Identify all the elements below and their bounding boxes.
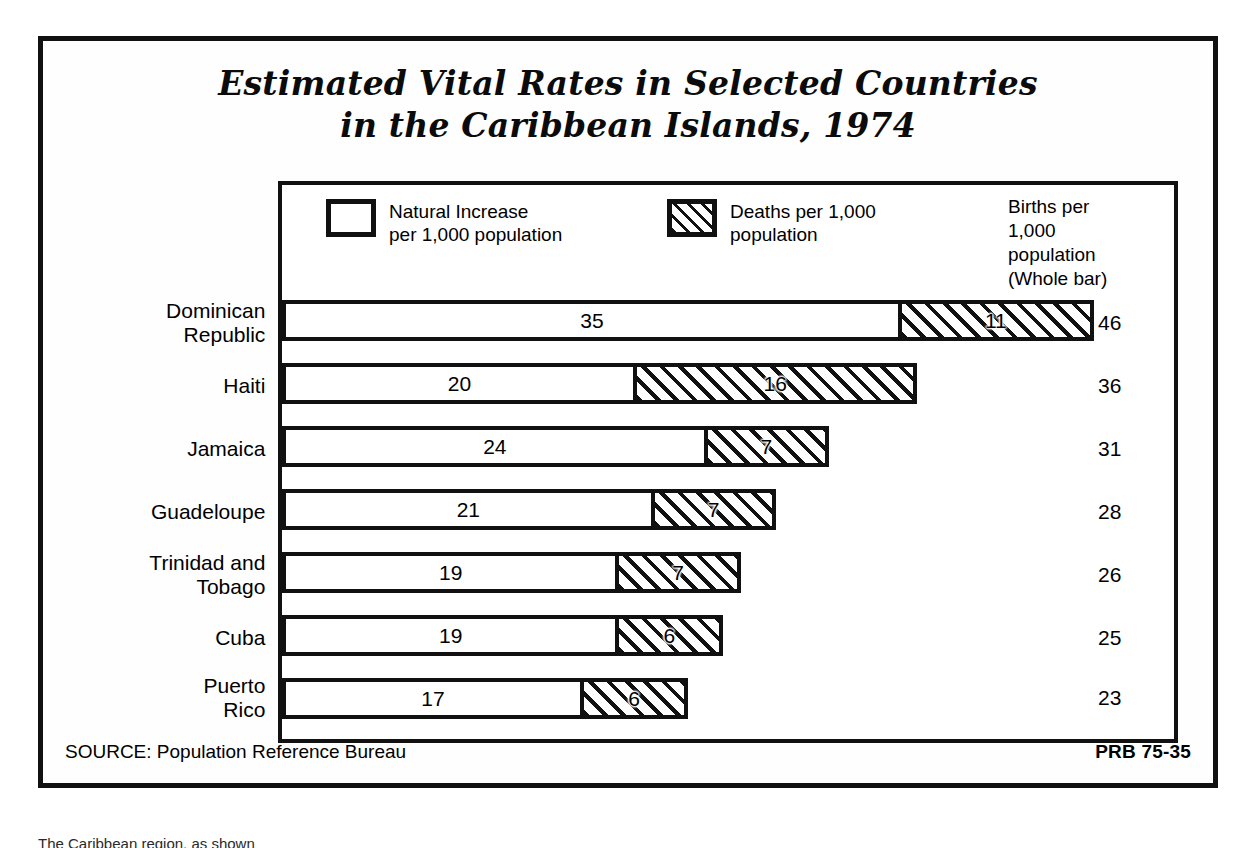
source-note: SOURCE: Population Reference Bureau	[65, 741, 406, 763]
row-label-trinidad-and-tobago: Trinidad and Tobago	[49, 550, 279, 599]
bar-value-deaths: 11	[985, 309, 1007, 333]
table-row: Cuba 19 6 25	[282, 606, 1174, 669]
stacked-bar: 17 6	[282, 678, 688, 719]
bar-value-natural-increase: 21	[457, 498, 480, 522]
chart-plot-area: Natural Increase per 1,000 population De…	[278, 181, 1178, 743]
chart-rows: Dominican Republic 35 11 46 Haiti 20	[282, 291, 1174, 727]
bar-segment-deaths: 7	[653, 489, 777, 530]
chart-footer: SOURCE: Population Reference Bureau PRB …	[65, 737, 1191, 767]
row-label-cuba: Cuba	[49, 625, 279, 649]
row-total-births: 46	[1098, 311, 1158, 335]
table-row: Guadeloupe 21 7 28	[282, 480, 1174, 543]
bar-value-natural-increase: 35	[580, 309, 603, 333]
bar-value-deaths: 6	[664, 624, 676, 648]
bar-segment-natural-increase: 21	[282, 489, 653, 530]
row-label-jamaica: Jamaica	[49, 436, 279, 460]
legend-label-births-whole-bar: Births per 1,000 population (Whole bar)	[1008, 195, 1158, 291]
row-label-guadeloupe: Guadeloupe	[49, 499, 279, 523]
row-total-births: 26	[1098, 563, 1158, 587]
table-row: Dominican Republic 35 11 46	[282, 291, 1174, 354]
bar-value-natural-increase: 17	[421, 687, 444, 711]
stacked-bar: 21 7	[282, 489, 776, 530]
table-row: Haiti 20 16 36	[282, 354, 1174, 417]
legend-swatch-natural-increase-icon	[326, 199, 376, 237]
bar-value-natural-increase: 19	[439, 561, 462, 585]
legend-label-natural-increase: Natural Increase per 1,000 population	[389, 199, 562, 246]
stacked-bar: 19 6	[282, 615, 723, 656]
bar-segment-natural-increase: 35	[282, 300, 900, 341]
bar-segment-natural-increase: 19	[282, 552, 617, 593]
row-total-births: 31	[1098, 437, 1158, 461]
publication-code: PRB 75-35	[1095, 741, 1191, 763]
chart-title-line-1: Estimated Vital Rates in Selected Countr…	[218, 64, 1038, 103]
row-total-births: 36	[1098, 374, 1158, 398]
page-title: Estimated Vital Rates in Selected Countr…	[43, 63, 1213, 147]
row-label-haiti: Haiti	[49, 373, 279, 397]
stacked-bar: 24 7	[282, 426, 829, 467]
poster-frame: Estimated Vital Rates in Selected Countr…	[38, 36, 1218, 788]
bar-segment-natural-increase: 17	[282, 678, 582, 719]
table-row: Puerto Rico 17 6 23	[282, 669, 1174, 727]
page-caption-sliver: The Caribbean region, as shown	[38, 834, 255, 848]
bar-segment-natural-increase: 24	[282, 426, 706, 467]
chart-legend: Natural Increase per 1,000 population De…	[282, 185, 1174, 291]
table-row: Trinidad and Tobago 19 7 26	[282, 543, 1174, 606]
row-label-puerto-rico: Puerto Rico	[49, 674, 279, 723]
legend-label-deaths: Deaths per 1,000 population	[730, 199, 876, 246]
bar-value-natural-increase: 19	[439, 624, 462, 648]
bar-segment-deaths: 16	[635, 363, 917, 404]
row-label-dominican-republic: Dominican Republic	[49, 298, 279, 347]
row-total-births: 25	[1098, 626, 1158, 650]
row-total-births: 23	[1098, 686, 1158, 710]
legend-item-deaths: Deaths per 1,000 population	[667, 199, 876, 246]
stacked-bar: 35 11	[282, 300, 1094, 341]
bar-value-natural-increase: 24	[483, 435, 506, 459]
bar-segment-deaths: 7	[617, 552, 741, 593]
bar-value-deaths: 16	[764, 372, 787, 396]
bar-segment-deaths: 11	[900, 300, 1094, 341]
row-total-births: 28	[1098, 500, 1158, 524]
bar-value-natural-increase: 20	[448, 372, 471, 396]
stacked-bar: 19 7	[282, 552, 741, 593]
legend-item-natural-increase: Natural Increase per 1,000 population	[326, 199, 562, 246]
bar-value-deaths: 6	[628, 687, 640, 711]
bar-value-deaths: 7	[672, 561, 684, 585]
bar-segment-natural-increase: 20	[282, 363, 635, 404]
chart-title-line-2: in the Caribbean Islands, 1974	[43, 105, 1213, 147]
table-row: Jamaica 24 7 31	[282, 417, 1174, 480]
bar-segment-natural-increase: 19	[282, 615, 617, 656]
legend-swatch-deaths-icon	[667, 199, 717, 237]
bar-segment-deaths: 6	[582, 678, 688, 719]
bar-value-deaths: 7	[761, 435, 773, 459]
stacked-bar: 20 16	[282, 363, 917, 404]
bar-segment-deaths: 6	[617, 615, 723, 656]
bar-segment-deaths: 7	[706, 426, 830, 467]
bar-value-deaths: 7	[708, 498, 720, 522]
